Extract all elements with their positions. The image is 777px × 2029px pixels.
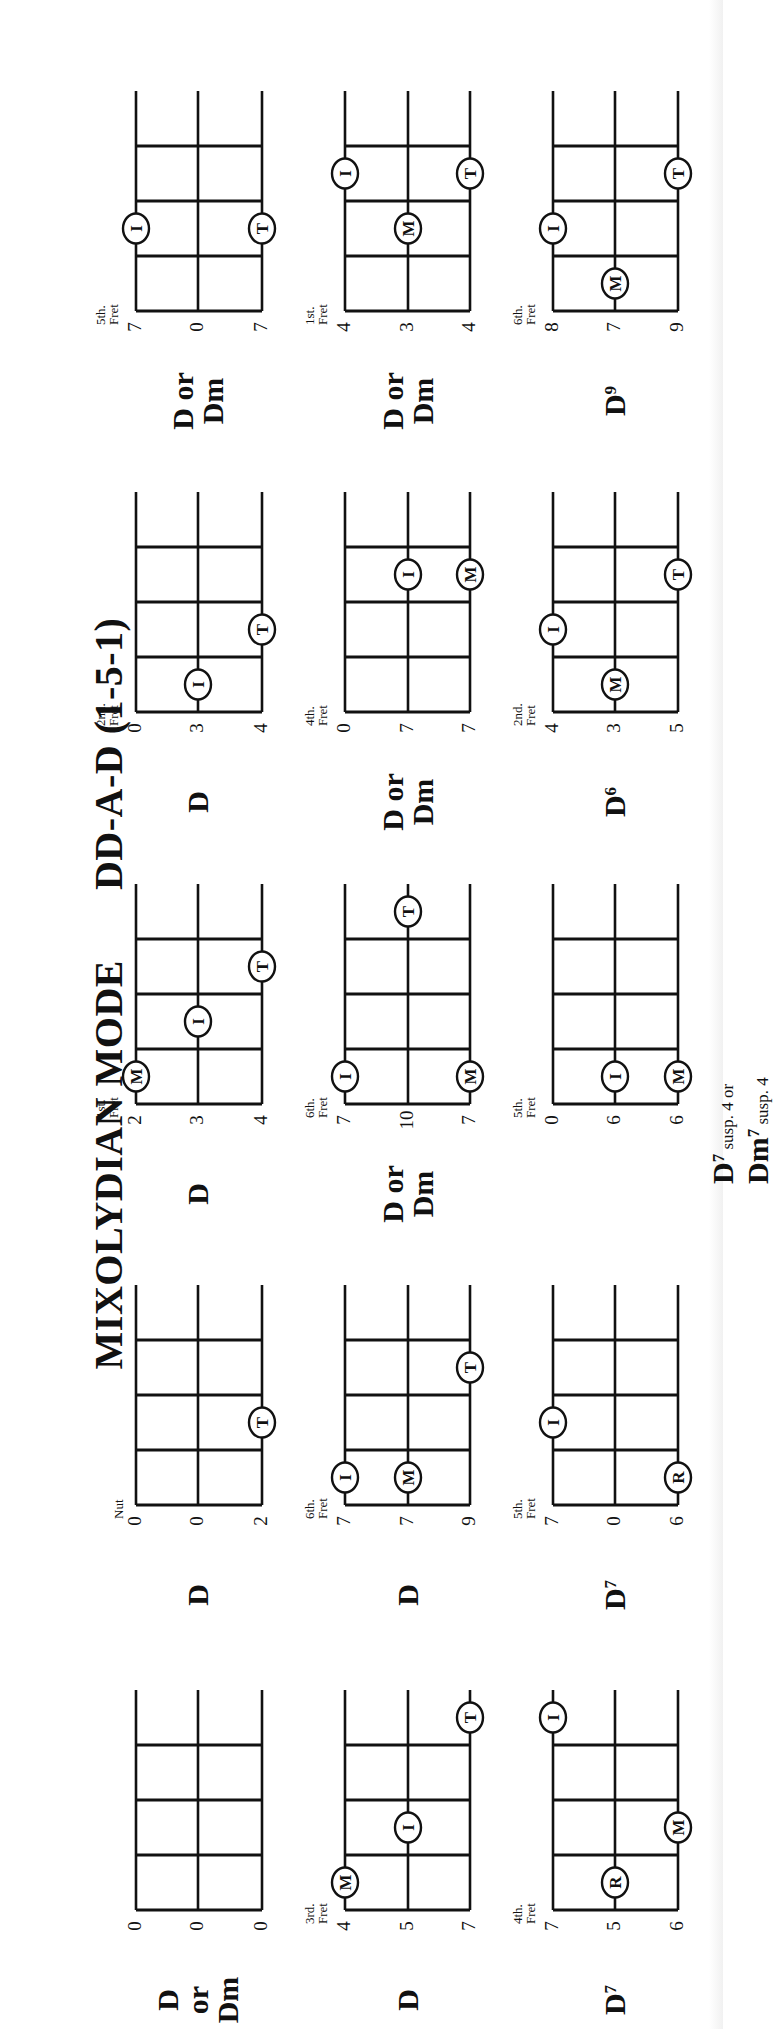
- position-label: 6th. Fret: [511, 304, 537, 325]
- chord-diagram: MIT8796th. FretD9: [0, 1699, 200, 2029]
- chord-name: D9: [600, 351, 630, 451]
- finger-marker-T: T: [665, 159, 691, 189]
- finger-marker-M: M: [602, 269, 628, 299]
- svg-text:T: T: [669, 167, 688, 179]
- svg-text:I: I: [544, 225, 563, 232]
- fret-number: 8: [541, 317, 563, 337]
- svg-text:M: M: [606, 275, 625, 291]
- fret-number: 9: [666, 317, 688, 337]
- fret-number: 7: [603, 317, 625, 337]
- finger-marker-I: I: [540, 214, 566, 244]
